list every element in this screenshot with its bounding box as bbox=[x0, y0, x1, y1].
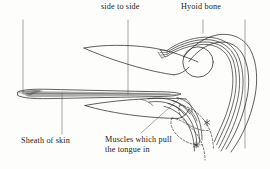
leader-lines bbox=[23, 20, 245, 148]
label-hyoid-bone: Hyoid bone bbox=[181, 2, 221, 12]
skull-outline bbox=[184, 34, 257, 152]
label-muscles-which-pull-the-tongue-in: Muscles which pull the tongue in bbox=[105, 135, 191, 155]
hyoid-horn-tips bbox=[158, 50, 167, 59]
asterisk-upper-icon bbox=[204, 120, 209, 126]
label-muscles-line-2: the tongue in bbox=[105, 145, 191, 155]
upper-beak-inner-edge bbox=[174, 67, 189, 75]
nape-inner-contour bbox=[189, 42, 249, 149]
label-muscles-line-1: Muscles which pull bbox=[105, 135, 172, 144]
head-outer-contour bbox=[184, 34, 257, 152]
hyoid-band-2 bbox=[167, 40, 240, 148]
figure-canvas: side to side Hyoid bone Sheath of skin M… bbox=[0, 0, 270, 169]
upper-beak-lower-edge bbox=[84, 48, 174, 75]
hyoid-tip-cross-1 bbox=[161, 50, 166, 57]
upper-beak bbox=[84, 45, 198, 74]
throat-hinge bbox=[141, 99, 153, 105]
muscles-leader bbox=[141, 99, 179, 133]
throat-crease-2 bbox=[189, 109, 197, 121]
label-sheath-of-skin: Sheath of skin bbox=[21, 136, 70, 146]
lower-beak-lower-edge bbox=[85, 106, 178, 119]
label-side-to-side: side to side bbox=[101, 2, 140, 12]
lower-beak bbox=[85, 98, 189, 118]
hyoid-band-3 bbox=[167, 42, 236, 145]
